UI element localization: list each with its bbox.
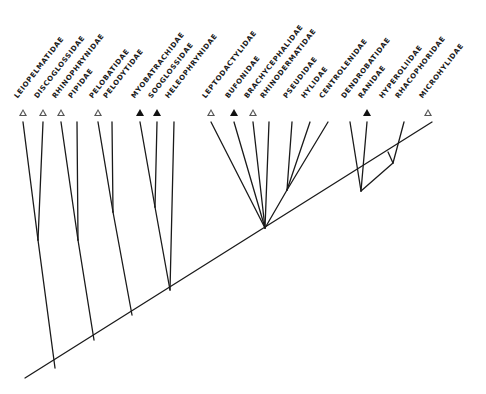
open-triangle-icon [424,109,432,116]
open-triangle-icon [39,109,47,116]
open-triangle-icon [57,109,65,116]
tree-branch [155,122,157,207]
tree-branch [265,190,287,228]
tree-branches [23,122,432,378]
open-triangle-icon [94,109,102,116]
tree-branch [112,122,113,212]
open-triangle-icon [19,109,27,116]
tree-branch [388,152,393,163]
filled-triangle-icon [136,109,144,116]
tree-branch [78,240,94,340]
tree-branch [287,122,292,190]
open-triangle-icon [249,109,257,116]
tree-branch [38,240,55,368]
tree-branch [361,163,393,191]
tree-spine [25,122,432,378]
filled-triangle-icon [153,109,161,116]
tree-branch [170,122,174,290]
tree-branch [265,122,269,228]
tree-branch [253,122,265,228]
tree-branch [287,122,310,190]
tree-branch [98,122,113,212]
open-triangle-icon [207,109,215,116]
tree-branch [61,122,78,240]
tree-branch [38,122,43,240]
tree-branch [23,122,38,240]
tree-branch [393,122,404,163]
tree-branch [113,212,132,315]
tree-branch [361,122,367,191]
tree-branch [140,122,155,207]
tree-branch [155,207,170,290]
tree-branch [350,122,361,191]
filled-triangle-icon [363,109,371,116]
filled-triangle-icon [230,109,238,116]
tree-branch [287,122,328,190]
tree-branch [77,122,78,240]
